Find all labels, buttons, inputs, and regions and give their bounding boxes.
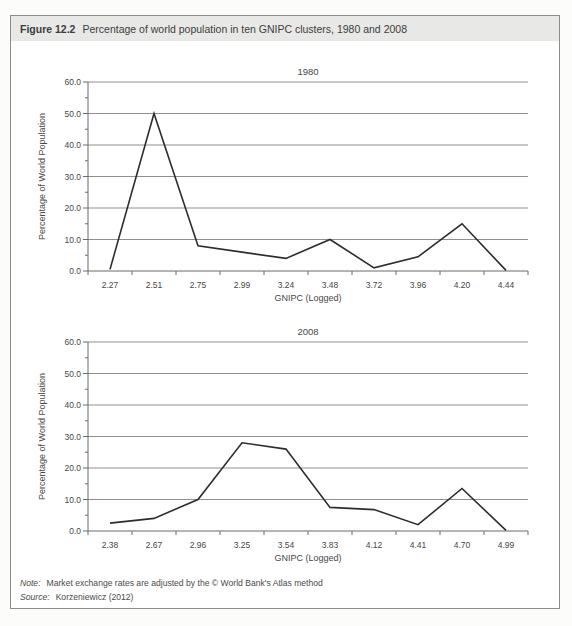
data-line <box>110 114 506 271</box>
y-tick-label: 60.0 <box>64 337 81 347</box>
x-tick-label: 3.83 <box>322 540 339 550</box>
y-tick-label: 20.0 <box>64 463 81 473</box>
figure-number: Figure 12.2 <box>20 23 75 35</box>
note-text: Market exchange rates are adjusted by th… <box>47 578 323 588</box>
y-tick-label: 30.0 <box>64 172 81 182</box>
y-tick-label: 40.0 <box>64 140 81 150</box>
y-axis-title: Percentage of World Population <box>37 113 47 240</box>
source-line: Source:Korzeniewicz (2012) <box>20 590 323 604</box>
x-tick-label: 3.54 <box>278 540 295 550</box>
data-line <box>110 443 506 531</box>
x-tick-label: 2.75 <box>190 280 207 290</box>
x-tick-label: 2.96 <box>190 540 207 550</box>
y-tick-label: 0.0 <box>69 526 81 536</box>
y-tick-label: 60.0 <box>64 77 81 87</box>
x-tick-label: 3.24 <box>278 280 295 290</box>
x-tick-label: 4.99 <box>498 540 515 550</box>
chart-title: 1980 <box>297 66 318 77</box>
x-tick-label: 2.27 <box>102 280 119 290</box>
page: Figure 12.2 Percentage of world populati… <box>0 0 572 626</box>
source-text: Korzeniewicz (2012) <box>56 592 134 602</box>
x-tick-label: 2.67 <box>146 540 163 550</box>
note-label: Note: <box>20 578 41 588</box>
y-tick-label: 0.0 <box>69 266 81 276</box>
x-axis-title: GNIPC (Logged) <box>274 293 341 303</box>
x-tick-label: 3.48 <box>322 280 339 290</box>
figure-caption: Percentage of world population in ten GN… <box>82 23 407 35</box>
source-label: Source: <box>20 592 50 602</box>
y-tick-label: 40.0 <box>64 400 81 410</box>
figure-box: Figure 12.2 Percentage of world populati… <box>10 15 560 609</box>
x-tick-label: 2.38 <box>102 540 119 550</box>
figure-notes: Note:Market exchange rates are adjusted … <box>20 576 323 604</box>
x-axis-title: GNIPC (Logged) <box>274 553 341 563</box>
x-tick-label: 3.25 <box>234 540 251 550</box>
chart-2008: 20080.010.020.030.040.050.060.02.382.672… <box>11 320 561 572</box>
x-tick-label: 3.96 <box>410 280 427 290</box>
note-line: Note:Market exchange rates are adjusted … <box>20 576 323 590</box>
figure-header: Figure 12.2 Percentage of world populati… <box>11 16 559 41</box>
chart-title: 2008 <box>297 326 318 337</box>
y-tick-label: 30.0 <box>64 432 81 442</box>
x-tick-label: 4.41 <box>410 540 427 550</box>
x-tick-label: 3.72 <box>366 280 383 290</box>
chart-1980: 19800.010.020.030.040.050.060.02.272.512… <box>11 60 561 312</box>
y-tick-label: 50.0 <box>64 109 81 119</box>
y-tick-label: 20.0 <box>64 203 81 213</box>
x-tick-label: 4.44 <box>498 280 515 290</box>
y-tick-label: 10.0 <box>64 495 81 505</box>
y-axis-title: Percentage of World Population <box>37 373 47 500</box>
x-tick-label: 4.12 <box>366 540 383 550</box>
y-tick-label: 50.0 <box>64 369 81 379</box>
x-tick-label: 2.99 <box>234 280 251 290</box>
x-tick-label: 2.51 <box>146 280 163 290</box>
x-tick-label: 4.20 <box>454 280 471 290</box>
x-tick-label: 4.70 <box>454 540 471 550</box>
y-tick-label: 10.0 <box>64 235 81 245</box>
